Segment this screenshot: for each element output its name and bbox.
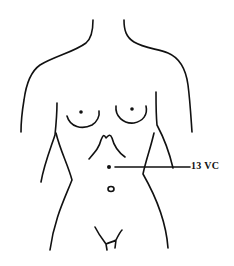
left-waist-hip-outline	[50, 133, 72, 250]
right-arm-inner-line	[156, 92, 173, 168]
left-arm-inner-line	[41, 103, 57, 182]
pubic-outline	[95, 227, 122, 250]
right-waist-hip-outline	[143, 133, 168, 248]
acupoint-label: 13 VC	[191, 160, 219, 171]
rib-cage-outline	[89, 135, 125, 159]
acupoint-marker	[107, 165, 111, 169]
navel	[108, 187, 114, 192]
left-breast-outline	[67, 111, 99, 127]
torso-diagram	[0, 0, 234, 266]
right-nipple	[130, 107, 134, 111]
right-neck-shoulder-outline	[124, 20, 192, 132]
left-nipple	[79, 110, 83, 114]
